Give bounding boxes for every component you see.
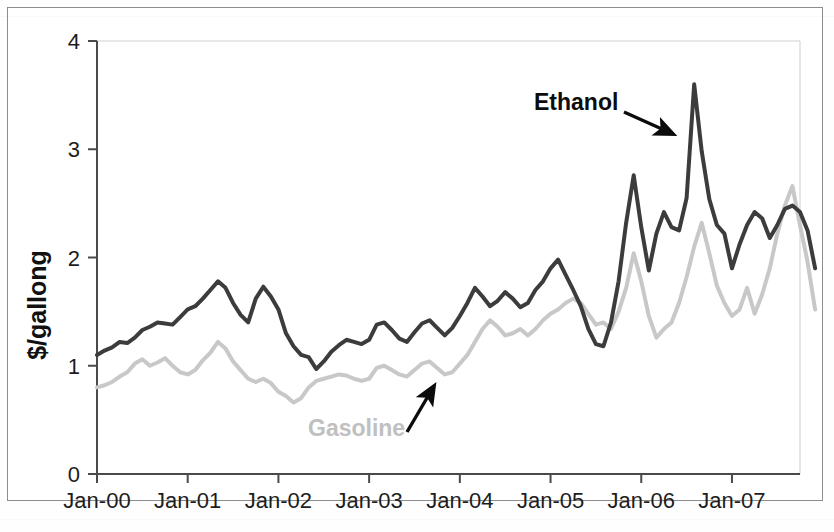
y-tick-label: 2 [68,246,80,271]
x-tick-label: Jan-00 [63,488,130,513]
x-tick-label: Jan-02 [245,488,312,513]
chart-canvas: 01234 Jan-00Jan-01Jan-02Jan-03Jan-04Jan-… [0,0,834,532]
y-tick-label: 4 [68,29,80,54]
x-tick-label: Jan-03 [335,488,402,513]
y-tick-label: 0 [68,462,80,487]
x-tick-label: Jan-05 [517,488,584,513]
x-axis-ticks: Jan-00Jan-01Jan-02Jan-03Jan-04Jan-05Jan-… [63,474,765,513]
scan-artifact [0,519,834,520]
series-line-ethanol [97,84,815,369]
annotation-ethanol: Ethanol [534,89,673,134]
x-tick-label: Jan-06 [608,488,675,513]
annotation-gasoline-label: Gasoline [308,415,405,441]
y-tick-label: 3 [68,137,80,162]
series-layer [97,84,815,402]
annotation-ethanol-arrow [624,112,673,134]
annotation-ethanol-label: Ethanol [534,89,618,115]
x-tick-label: Jan-04 [426,488,493,513]
y-axis-title: $/gallong [23,250,51,360]
annotation-gasoline: Gasoline [308,386,434,441]
x-tick-label: Jan-07 [698,488,765,513]
y-tick-label: 1 [68,354,80,379]
annotation-gasoline-arrow [407,386,434,432]
y-axis-ticks: 01234 [68,29,97,487]
figure-container: 01234 Jan-00Jan-01Jan-02Jan-03Jan-04Jan-… [0,0,834,532]
x-tick-label: Jan-01 [154,488,221,513]
scan-artifact [0,16,834,17]
